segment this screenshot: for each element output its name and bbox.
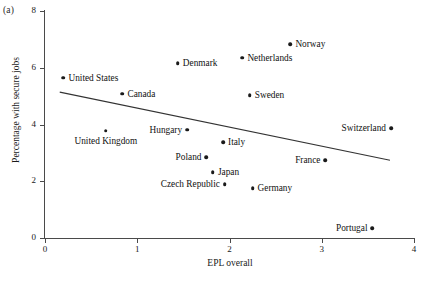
y-tick-mark [40, 125, 44, 126]
trend-line [0, 0, 427, 295]
x-tick-label: 4 [406, 244, 422, 254]
x-tick-label: 2 [222, 244, 238, 254]
data-point-label: Switzerland [342, 123, 386, 133]
y-axis-line [44, 10, 45, 239]
data-point-label: Sweden [255, 90, 284, 100]
data-point-marker [241, 56, 245, 60]
data-point-label: Netherlands [247, 53, 292, 63]
data-point-label: Poland [176, 152, 202, 162]
data-point-marker [176, 62, 180, 66]
data-point-marker [211, 170, 215, 174]
y-tick-label: 0 [20, 232, 36, 242]
data-point-marker [104, 129, 108, 133]
y-tick-label: 6 [20, 62, 36, 72]
figure-panel-a: (a) 02468 01234 Percentage with secure j… [0, 0, 427, 295]
data-point-label: Italy [228, 137, 245, 147]
data-point-marker [185, 128, 189, 132]
y-tick-mark [40, 11, 44, 12]
y-tick-label: 2 [20, 175, 36, 185]
data-point-marker [121, 92, 125, 96]
data-point-marker [324, 158, 328, 162]
data-point-label: Czech Republic [161, 179, 220, 189]
y-tick-mark [40, 238, 44, 239]
data-point-marker [248, 93, 252, 97]
panel-b-stub: (b) 8 [0, 270, 427, 295]
data-point-marker [223, 182, 227, 186]
x-tick-mark [414, 239, 415, 243]
x-tick-label: 1 [129, 244, 145, 254]
data-point-label: Hungary [150, 125, 183, 135]
data-point-marker [289, 43, 293, 47]
x-tick-label: 3 [314, 244, 330, 254]
x-tick-label: 0 [37, 244, 53, 254]
x-axis-title: EPL overall [45, 258, 415, 268]
data-point-marker [251, 186, 255, 190]
y-tick-label: 8 [20, 5, 36, 15]
panel-a-letter: (a) [3, 5, 14, 15]
data-point-label: United Kingdom [75, 136, 138, 146]
x-tick-mark [45, 239, 46, 243]
data-point-label: Japan [218, 167, 239, 177]
y-tick-label: 4 [20, 119, 36, 129]
data-point-label: Canada [127, 89, 155, 99]
x-tick-mark [137, 239, 138, 243]
data-point-marker [62, 76, 66, 80]
y-tick-mark [40, 68, 44, 69]
y-tick-mark [40, 181, 44, 182]
data-point-label: France [295, 155, 320, 165]
x-tick-mark [230, 239, 231, 243]
data-point-label: Norway [295, 39, 325, 49]
data-point-marker [389, 126, 393, 130]
y-axis-title: Percentage with secure jobs [11, 20, 21, 200]
data-point-label: Denmark [183, 58, 218, 68]
data-point-marker [221, 140, 225, 144]
x-tick-mark [322, 239, 323, 243]
data-point-label: Portugal [336, 223, 368, 233]
data-point-marker [371, 226, 375, 230]
data-point-label: Germany [258, 183, 293, 193]
data-point-marker [205, 155, 209, 159]
data-point-label: United States [68, 73, 118, 83]
